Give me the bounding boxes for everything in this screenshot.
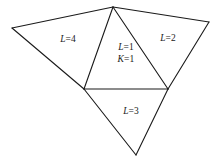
face-label-center: L=1 K=1 <box>118 42 135 65</box>
face-fills <box>12 7 209 155</box>
triangle-mesh-diagram: L=4 L=2 L=1 K=1 L=3 <box>0 0 219 164</box>
face-right-value: 2 <box>171 33 176 43</box>
mesh-svg-canvas <box>0 0 219 164</box>
face-bottom-fill <box>84 89 168 155</box>
face-bottom-value: 3 <box>134 106 139 116</box>
face-center-line-1: L=1 <box>118 42 135 54</box>
face-label-bottom: L=3 <box>123 106 139 118</box>
face-center-value-2: 1 <box>130 54 135 64</box>
face-label-left: L=4 <box>60 34 76 46</box>
face-center-value-1: 1 <box>129 42 134 52</box>
face-center-line-2: K=1 <box>118 54 135 66</box>
face-label-right: L=2 <box>160 33 176 45</box>
face-left-value: 4 <box>71 34 76 44</box>
